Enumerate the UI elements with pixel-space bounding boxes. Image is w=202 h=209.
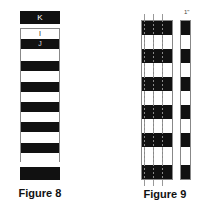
figure8-bottom-bar: [20, 167, 60, 180]
stripe: [21, 112, 59, 122]
stripe: [21, 92, 59, 102]
figure9-strip: [180, 20, 191, 180]
stripe: [21, 71, 59, 82]
figure9-caption: Figure 9: [135, 188, 195, 200]
stripe: [21, 102, 59, 112]
stripe: [21, 82, 59, 92]
stripe: [21, 153, 59, 163]
stripe: [21, 122, 59, 132]
strip-width-label: 1": [184, 9, 189, 15]
label-i: I: [39, 30, 41, 37]
figure9-striped-block: [141, 20, 173, 180]
figure8-striped-column: I J: [20, 28, 60, 162]
stripe: J: [21, 39, 59, 49]
stripe: [21, 49, 59, 61]
figure8-top-bar: K: [20, 11, 60, 24]
label-k: K: [37, 13, 42, 22]
stripe: I: [21, 29, 59, 39]
label-j: J: [38, 40, 42, 47]
stripe: [21, 143, 59, 153]
figure8-caption: Figure 8: [10, 187, 70, 199]
stripe: [21, 61, 59, 71]
stripe: [21, 132, 59, 143]
